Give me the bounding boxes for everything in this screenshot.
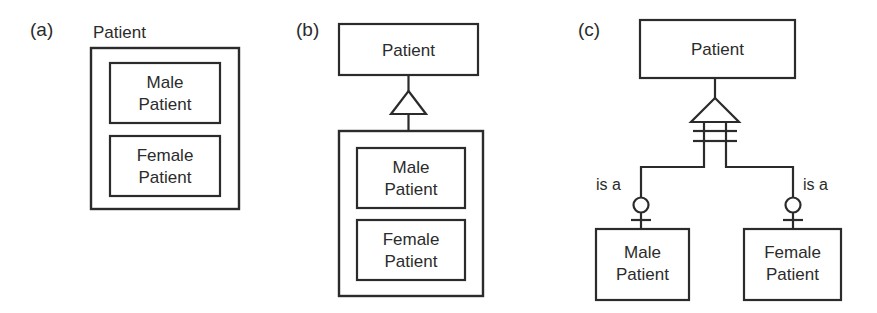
panel-c-female-label-line2: Patient [766, 265, 819, 284]
panel-b-parent-label: Patient [382, 41, 435, 60]
panel-c-optional-circle-left [634, 198, 649, 213]
panel-b-female-label-line2: Patient [385, 252, 438, 271]
panel-b-label: (b) [296, 19, 319, 40]
panel-a-female-label-line2: Patient [139, 168, 192, 187]
panel-c-female-label-line1: Female [764, 243, 821, 262]
panel-c-branch-left [641, 167, 704, 198]
panel-c-edge-label-left: is a [596, 176, 621, 193]
panel-c-male-label-line1: Male [624, 243, 661, 262]
panel-c-label: (c) [578, 19, 600, 40]
panel-c: (c) Patient is a is a [578, 19, 841, 300]
panel-b: (b) Patient Male Patient Female Patient [296, 19, 483, 296]
panel-c-male-label-line2: Patient [616, 265, 669, 284]
panel-a-male-box [110, 63, 220, 123]
panel-a: (a) Patient Male Patient Female Patient [30, 19, 239, 209]
panel-b-generalization-triangle [391, 91, 426, 114]
panel-b-male-label-line2: Patient [385, 180, 438, 199]
panel-a-male-label-line1: Male [147, 73, 184, 92]
panel-c-edge-label-right: is a [803, 176, 828, 193]
panel-b-female-box [357, 220, 465, 280]
panel-c-optional-circle-right [786, 198, 801, 213]
panel-c-generalization-triangle [691, 98, 739, 122]
panel-b-female-label-line1: Female [383, 230, 440, 249]
panel-b-male-box [357, 148, 465, 208]
panel-a-label: (a) [30, 19, 53, 40]
diagram-canvas: (a) Patient Male Patient Female Patient … [0, 0, 877, 313]
panel-c-parent-label: Patient [691, 40, 744, 59]
panel-a-male-label-line2: Patient [139, 95, 192, 114]
panel-c-branch-right [726, 167, 793, 198]
panel-a-container-caption: Patient [93, 23, 146, 42]
panel-a-female-box [110, 136, 220, 196]
panel-a-female-label-line1: Female [137, 146, 194, 165]
figure-root: (a) Patient Male Patient Female Patient … [0, 0, 877, 313]
panel-b-male-label-line1: Male [393, 158, 430, 177]
